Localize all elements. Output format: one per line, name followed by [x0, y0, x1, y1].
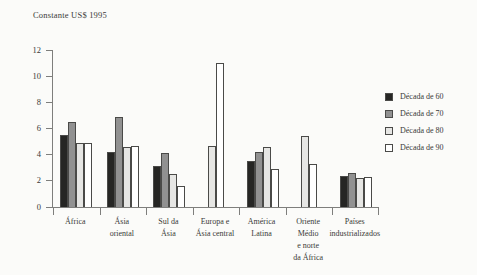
y-axis-tick [46, 76, 52, 77]
bar [68, 122, 76, 207]
legend-swatch-icon [385, 110, 393, 118]
bar-group-4 [193, 50, 240, 207]
y-axis-label: 0 [19, 203, 41, 212]
legend-label: Década de 60 [400, 92, 444, 101]
legend-label: Década de 80 [400, 126, 444, 135]
legend-item: Década de 90 [385, 143, 444, 152]
bar-group-5 [239, 50, 286, 207]
bar [356, 178, 364, 207]
bar [263, 147, 271, 207]
y-axis-label: 6 [19, 124, 41, 133]
bar-group-1 [53, 50, 100, 207]
x-axis-tick [332, 207, 333, 215]
bar-group-2 [100, 50, 147, 207]
bar [271, 169, 279, 207]
x-axis-tick [378, 207, 379, 215]
y-axis-tick [46, 180, 52, 181]
bar [348, 173, 356, 207]
bar [115, 117, 123, 207]
y-axis-tick [46, 102, 52, 103]
y-axis-tick [46, 207, 52, 208]
plot-area [52, 50, 379, 208]
bar [169, 174, 177, 207]
x-axis-tick [193, 207, 194, 215]
legend-label: Década de 90 [400, 143, 444, 152]
legend-swatch-icon [385, 93, 393, 101]
chart-canvas: Constante US$ 1995 Década de 60Década de… [0, 0, 477, 275]
legend-swatch-icon [385, 144, 393, 152]
bar [255, 152, 263, 207]
bar [131, 146, 139, 207]
legend-item: Década de 60 [385, 92, 444, 101]
y-axis-label: 10 [19, 72, 41, 81]
x-axis-category-label: Países industrializados [317, 216, 392, 240]
y-axis-label: 2 [19, 176, 41, 185]
bar-group-7 [332, 50, 379, 207]
bar [161, 153, 169, 207]
x-axis-tick [146, 207, 147, 215]
bar [301, 136, 309, 207]
x-axis-tick [286, 207, 287, 215]
bar [340, 176, 348, 207]
legend: Década de 60Década de 70Década de 80Déca… [385, 92, 444, 160]
bar-group-6 [286, 50, 333, 207]
bar [84, 143, 92, 207]
bar [216, 63, 224, 207]
bar-group-3 [146, 50, 193, 207]
bar [247, 161, 255, 207]
bar [177, 186, 185, 207]
x-axis-tick [53, 207, 54, 215]
bar [76, 143, 84, 207]
y-axis-tick [46, 128, 52, 129]
y-axis-tick [46, 50, 52, 51]
legend-item: Década de 80 [385, 126, 444, 135]
legend-item: Década de 70 [385, 109, 444, 118]
bar [364, 177, 372, 207]
bar [208, 146, 216, 207]
y-axis-label: 8 [19, 98, 41, 107]
y-axis-tick [46, 154, 52, 155]
bar [153, 166, 161, 207]
x-axis-tick [239, 207, 240, 215]
bar [107, 152, 115, 207]
chart-title: Constante US$ 1995 [33, 10, 107, 20]
bar [309, 164, 317, 207]
y-axis-label: 12 [19, 46, 41, 55]
legend-swatch-icon [385, 127, 393, 135]
legend-label: Década de 70 [400, 109, 444, 118]
bar [123, 147, 131, 207]
x-axis-tick [100, 207, 101, 215]
bar [60, 135, 68, 207]
y-axis-label: 4 [19, 150, 41, 159]
